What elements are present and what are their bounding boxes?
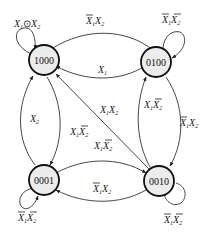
svg-text:X1X2: X1X2 <box>143 99 162 111</box>
state-node-0010: 0010 <box>144 166 174 196</box>
svg-text:X1: X1 <box>97 64 107 76</box>
svg-text:X1X2: X1X2 <box>17 212 36 224</box>
label-1000-self: X1⊙X2 <box>13 18 40 30</box>
label-0100-self: X1X2 <box>161 14 181 26</box>
svg-text:X1X2: X1X2 <box>85 15 104 27</box>
svg-text:X1X2: X1X2 <box>99 104 118 116</box>
label-0001-self: X1X2 <box>17 212 37 224</box>
svg-text:X1X2: X1X2 <box>69 126 88 138</box>
state-node-0001: 0001 <box>29 165 59 195</box>
label-0001-to-1000: X2 <box>29 113 39 125</box>
state-node-1000: 1000 <box>29 45 59 75</box>
label-0100-to-0010: X1X2 <box>179 117 198 129</box>
label-0001-to-0010: X1X2 <box>93 140 112 152</box>
svg-text:X1X2: X1X2 <box>161 14 180 26</box>
svg-text:X1X2: X1X2 <box>93 140 112 152</box>
edge-1000-to-0001 <box>47 77 60 165</box>
svg-text:X1X2: X1X2 <box>179 117 198 129</box>
svg-text:X1X2: X1X2 <box>92 183 111 195</box>
edge-0001-to-0010 <box>56 161 146 173</box>
svg-text:X2: X2 <box>29 113 39 125</box>
label-0010-self: X1X2 <box>163 214 183 226</box>
label-0100-to-1000: X1 <box>97 64 107 76</box>
label-0010-to-0001: X1X2 <box>92 183 111 195</box>
state-diagram: 1000 0100 0001 0010 X1⊙X2 X1X2 X1X2 X1 <box>0 0 207 241</box>
edge-0010-to-0100 <box>138 77 150 167</box>
svg-text:X1X2: X1X2 <box>163 214 182 226</box>
edge-1000-to-0100 <box>53 33 153 50</box>
label-0010-to-1000: X1X2 <box>99 104 118 116</box>
label-1000-to-0100: X1X2 <box>85 15 104 27</box>
label-1000-to-0001: X1X2 <box>69 126 88 138</box>
state-label-0010: 0010 <box>149 176 169 187</box>
state-label-0100: 0100 <box>146 57 166 68</box>
state-label-1000: 1000 <box>34 55 54 66</box>
state-label-0001: 0001 <box>34 175 54 186</box>
edge-0100-to-0010 <box>166 77 181 166</box>
svg-text:X1⊙X2: X1⊙X2 <box>13 18 40 30</box>
edge-0010-to-1000 <box>56 74 150 170</box>
state-node-0100: 0100 <box>141 47 171 77</box>
label-0010-to-0100: X1X2 <box>143 99 162 111</box>
